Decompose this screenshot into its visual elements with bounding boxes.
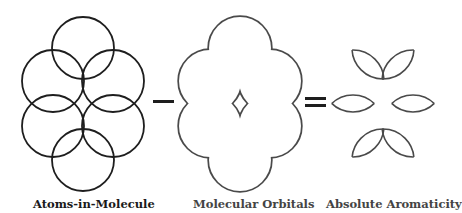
absolute-aromaticity-figure: [322, 17, 444, 191]
atoms-in-molecule-label: Atoms-in-Molecule: [33, 197, 155, 211]
equals-operator-bottom: [305, 104, 326, 107]
molecular-orbitals-label: Molecular Orbitals: [193, 197, 314, 211]
atoms-in-molecule-figure: [22, 17, 144, 191]
equals-operator-top: [305, 97, 326, 100]
absolute-aromaticity-label: Absolute Aromaticity: [326, 197, 462, 211]
molecular-orbitals-figure: [179, 17, 301, 191]
minus-operator: [153, 100, 174, 103]
